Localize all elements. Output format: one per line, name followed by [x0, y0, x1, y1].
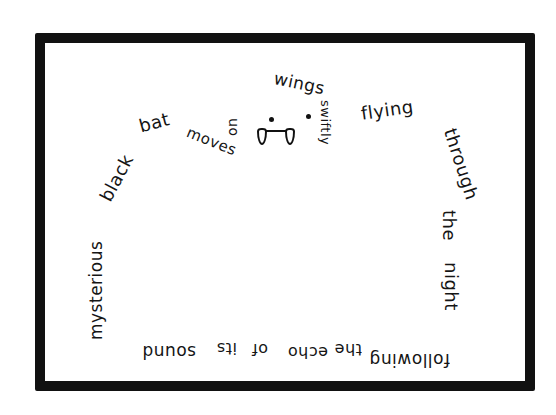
- word-swiftly: swiftly: [319, 100, 332, 145]
- word-night: night: [442, 262, 460, 311]
- word-the-bottom: the: [334, 341, 362, 357]
- bat-eye-right: [306, 114, 311, 119]
- word-sound: sound: [142, 343, 196, 360]
- word-following: following: [369, 351, 450, 368]
- bat-eye-left: [269, 117, 274, 122]
- word-mysterious: mysterious: [88, 241, 105, 340]
- word-of: of: [252, 341, 268, 357]
- word-its: its: [216, 340, 237, 356]
- word-on: on: [225, 118, 239, 136]
- word-echo: echo: [287, 344, 328, 360]
- word-the: the: [440, 210, 458, 241]
